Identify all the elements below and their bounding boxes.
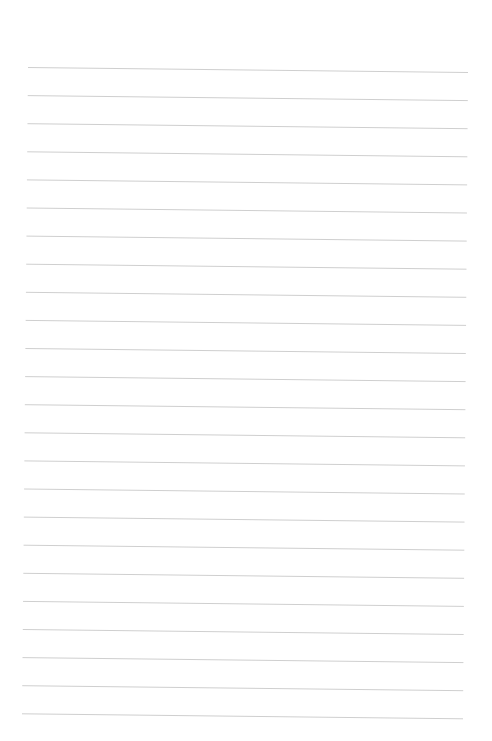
ruled-line <box>28 68 468 73</box>
ruled-line <box>27 208 467 213</box>
ruled-line <box>24 545 465 550</box>
ruled-line <box>23 601 464 606</box>
ruled-line <box>26 264 466 269</box>
ruled-line <box>25 433 466 438</box>
ruled-line <box>22 714 463 719</box>
ruled-line <box>27 180 467 185</box>
ruled-line <box>23 630 464 635</box>
ruled-line <box>25 349 465 354</box>
ruled-line <box>24 517 465 522</box>
ruled-line <box>26 292 466 297</box>
ruled-line <box>24 461 465 466</box>
ruled-line <box>26 320 466 325</box>
ruled-line <box>22 686 463 691</box>
ruled-line <box>23 658 464 663</box>
ruled-line <box>27 124 467 129</box>
lined-paper-page <box>0 0 492 741</box>
ruled-line <box>25 405 466 410</box>
ruled-line <box>26 236 466 241</box>
ruled-line <box>25 377 465 382</box>
ruled-line <box>27 152 467 157</box>
ruled-lines <box>0 0 492 741</box>
ruled-line <box>23 573 464 578</box>
ruled-line <box>24 489 465 494</box>
ruled-line <box>28 96 468 101</box>
